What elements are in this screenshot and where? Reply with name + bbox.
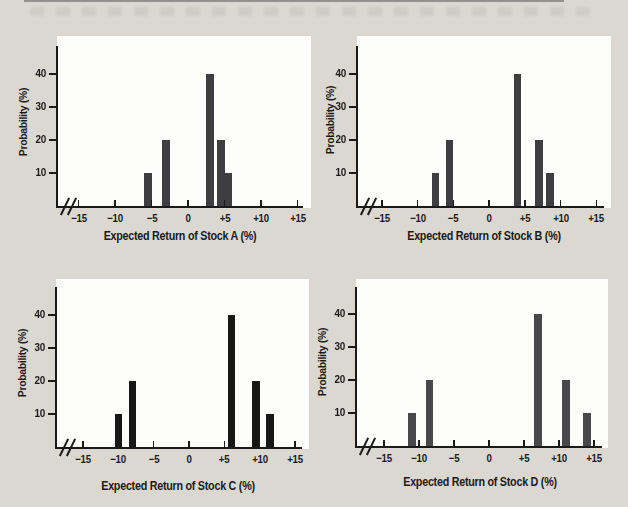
probability-bar <box>562 380 570 446</box>
plot-area <box>356 279 608 448</box>
x-tick <box>453 440 455 446</box>
x-tick-label: −10 <box>411 452 427 464</box>
x-tick <box>383 440 385 446</box>
x-tick-label: +5 <box>519 452 530 464</box>
probability-bar <box>426 380 434 446</box>
x-tick <box>593 440 595 446</box>
chart-stock-d: −15−10−50+5+10+1510203040Probability (%)… <box>0 0 628 507</box>
y-tick-label: 40 <box>322 307 345 319</box>
x-tick <box>418 440 420 446</box>
x-axis-title: Expected Return of Stock D (%) <box>403 475 557 489</box>
x-tick-label: −5 <box>449 452 460 464</box>
x-tick <box>523 440 525 446</box>
x-tick-label: +15 <box>586 452 602 464</box>
y-tick-label: 10 <box>322 406 345 418</box>
y-tick <box>348 412 355 414</box>
y-tick <box>348 379 355 381</box>
x-tick-label: +10 <box>551 452 567 464</box>
x-tick-label: −15 <box>376 452 392 464</box>
probability-bar <box>408 413 416 446</box>
x-tick <box>558 440 560 446</box>
x-tick <box>488 440 490 446</box>
probability-bar <box>583 413 591 446</box>
x-tick-label: 0 <box>486 452 491 464</box>
probability-bar <box>534 314 542 446</box>
y-axis-line <box>355 287 357 448</box>
y-axis-title: Probability (%) <box>316 328 328 396</box>
four-stock-probability-figure: −15−10−50+5+10+1510203040Probability (%)… <box>0 0 628 507</box>
x-axis-line <box>355 446 602 448</box>
y-tick <box>348 346 355 348</box>
y-tick <box>348 313 355 315</box>
